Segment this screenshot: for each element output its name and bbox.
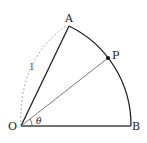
label-P: P (112, 49, 120, 62)
angle-arc (30, 119, 32, 126)
label-B: B (132, 120, 140, 133)
label-theta: θ (36, 116, 42, 126)
arc-AB (69, 26, 131, 126)
segment-OA (21, 26, 69, 126)
label-radius: 1 (29, 62, 35, 72)
label-O: O (8, 120, 17, 133)
sector-diagram: A P O B 1 θ (0, 0, 147, 143)
point-P (106, 56, 110, 60)
label-A: A (64, 12, 74, 25)
